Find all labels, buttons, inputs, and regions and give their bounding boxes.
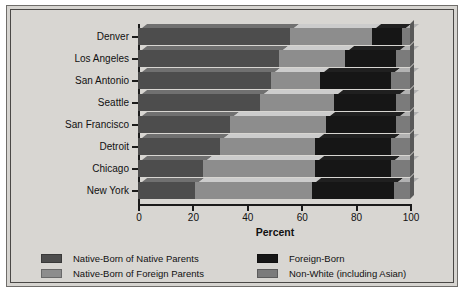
bar-segment [138,94,260,111]
bar-segment-top [283,46,353,50]
bar-segment-top [234,112,334,116]
bar-segment [391,160,410,177]
legend-item: Native-Born of Foreign Parents [41,268,204,279]
legend-swatch [41,269,62,278]
legend-swatch [257,269,278,278]
bar-segment [195,182,312,199]
bar-segment [260,94,333,111]
x-axis-tick-label: 80 [351,212,362,223]
x-axis-tick [410,206,412,211]
legend-swatch [257,254,278,263]
bar-segment [203,160,315,177]
x-axis-tick-label: 0 [136,212,142,223]
bar-segment [279,50,344,67]
x-axis-tick-label: 40 [242,212,253,223]
bar-segment-top [142,46,289,50]
bar-segment-top [142,90,270,94]
x-axis-tick [247,206,249,211]
legend-swatch [41,254,62,263]
bar-segment-top [142,68,280,72]
y-axis-label: Denver [97,32,129,42]
x-axis-line [138,204,412,206]
bar-segment-top [319,134,400,138]
bar-segment [394,182,410,199]
bar-segment-top [142,134,229,138]
bar-segment-top [319,156,400,160]
bar-segment [230,116,325,133]
bar-segment [138,50,279,67]
bar-segment-top [324,68,400,72]
bar-segment [391,72,410,89]
y-axis-label: Chicago [92,164,129,174]
bar-segment [220,138,315,155]
bar-segment-top [142,24,299,28]
bar-segment [138,116,230,133]
bar-segment-top [142,112,240,116]
bar-segment [312,182,394,199]
bar-segment [320,72,391,89]
bar-segment [396,116,410,133]
figure-frame: DenverLos AngelesSan AntonioSeattleSan F… [6,5,458,287]
y-axis-label: Los Angeles [75,54,130,64]
x-axis-tick-label: 20 [188,212,199,223]
bar-segment [334,94,397,111]
plot-area: DenverLos AngelesSan AntonioSeattleSan F… [138,24,410,204]
y-axis-label: San Antonio [75,76,129,86]
bar-segment [138,138,220,155]
bar-segment [396,94,410,111]
bar-segment [138,182,195,199]
y-axis-label: New York [87,186,129,196]
x-axis-tick-label: 60 [297,212,308,223]
y-axis-label: Seattle [98,98,129,108]
legend-label: Non-White (including Asian) [289,268,406,279]
bar-segment-top [142,156,212,160]
y-axis-label: San Francisco [65,120,129,130]
bar-segment [391,138,410,155]
x-axis-tick [192,206,194,211]
legend-item: Non-White (including Asian) [257,268,406,279]
bar-segment [138,160,203,177]
bar-segment [345,50,397,67]
bar-segment-top [294,24,381,28]
y-axis-label: Detroit [100,142,129,152]
bar-segment [138,72,271,89]
bar-segment [326,116,397,133]
x-axis-tick [138,206,140,211]
bar-end-cap [410,174,414,199]
bar-segment [315,138,391,155]
legend-item: Foreign-Born [257,253,344,264]
bar-segment-top [207,156,324,160]
x-axis-tick [356,206,358,211]
bar-segment [315,160,391,177]
bar-segment-top [338,90,406,94]
legend-label: Native-Born of Native Parents [73,253,199,264]
bar-segment [138,28,290,45]
bar-segment [372,28,402,45]
bar-segment-top [224,134,324,138]
x-axis-title: Percent [138,226,412,238]
bar-segment [271,72,320,89]
bar-segment-top [264,90,343,94]
legend-label: Native-Born of Foreign Parents [73,268,204,279]
x-axis-tick [301,206,303,211]
legend-label: Foreign-Born [289,253,344,264]
chart-legend: Native-Born of Native ParentsNative-Born… [41,253,441,287]
bar-segment-top [330,112,406,116]
bar-segment-top [199,178,321,182]
bar-segment [402,28,410,45]
chart-screenshot: DenverLos AngelesSan AntonioSeattleSan F… [0,0,464,292]
legend-item: Native-Born of Native Parents [41,253,199,264]
x-axis-tick-label: 100 [403,212,420,223]
bar-segment-top [316,178,403,182]
bar-segment [290,28,372,45]
bar-segment [396,50,410,67]
